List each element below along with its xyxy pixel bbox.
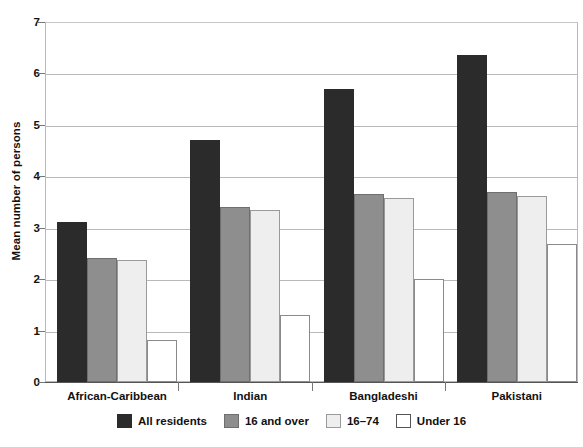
bar [147,340,177,382]
bar [250,210,280,382]
legend-swatch-icon [117,414,132,428]
bar [414,279,444,382]
legend-swatch-icon [326,414,341,428]
x-category-label: Pakistani [492,390,543,402]
legend-label: 16 and over [245,415,309,427]
y-tick-mark [38,176,45,177]
x-category-label: Indian [233,390,267,402]
legend-item: 16–74 [326,414,379,428]
y-tick-label: 3 [12,222,40,234]
y-tick-label: 7 [12,16,40,28]
bar-chart: Mean number of persons 01234567 African-… [0,0,583,447]
y-tick-label: 6 [12,67,40,79]
bar [384,198,414,382]
bar [547,244,577,382]
x-axis-separator-tick [312,382,313,391]
legend-item: Under 16 [396,414,466,428]
y-tick-mark [38,279,45,280]
bars-layer [45,22,578,382]
y-tick-mark [38,125,45,126]
bar [457,55,487,382]
legend-label: Under 16 [417,415,466,427]
legend-swatch-icon [224,414,239,428]
legend-label: 16–74 [347,415,379,427]
bar [87,258,117,382]
x-axis-separator-tick [445,382,446,391]
y-tick-mark [38,22,45,23]
bar [354,194,384,382]
legend-item: All residents [117,414,207,428]
chart-legend: All residents16 and over16–74Under 16 [0,414,583,428]
bar [517,196,547,382]
legend-swatch-icon [396,414,411,428]
legend-label: All residents [138,415,207,427]
bar [280,315,310,382]
y-tick-label: 1 [12,325,40,337]
bar [57,222,87,382]
x-category-label: African-Caribbean [67,390,167,402]
y-tick-label: 0 [12,376,40,388]
x-axis-separator-tick [178,382,179,391]
bar [324,89,354,382]
y-tick-mark [38,331,45,332]
bar [190,140,220,382]
legend-item: 16 and over [224,414,309,428]
bar [220,207,250,382]
y-axis-title-text: Mean number of persons [10,122,22,261]
y-tick-mark [38,73,45,74]
x-category-label: Bangladeshi [349,390,417,402]
y-tick-label: 2 [12,273,40,285]
y-tick-mark [38,382,45,383]
bar [117,260,147,382]
y-tick-label: 4 [12,170,40,182]
y-tick-mark [38,228,45,229]
bar [487,192,517,382]
y-tick-label: 5 [12,119,40,131]
